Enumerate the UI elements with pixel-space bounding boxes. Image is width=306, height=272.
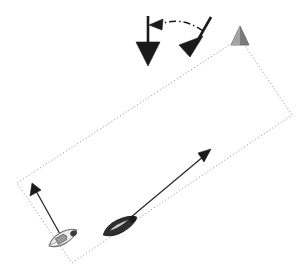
vessel-light-icon — [46, 225, 80, 251]
short-track-arrow — [30, 183, 60, 234]
tilted-heading-arrow-icon — [179, 17, 211, 57]
long-track-arrow — [124, 149, 211, 223]
vessel-dark-icon — [100, 211, 140, 240]
survey-area-outline — [17, 38, 292, 263]
diagram-canvas — [0, 0, 306, 272]
survey-diagram — [0, 0, 306, 272]
rotation-dashdot-arrow-icon — [149, 19, 203, 31]
gray-triangle-marker-icon — [231, 26, 249, 45]
